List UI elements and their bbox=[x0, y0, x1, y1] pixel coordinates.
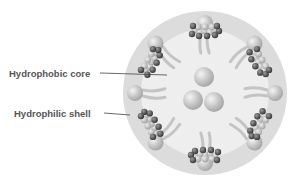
drug-atom-dark bbox=[254, 134, 260, 140]
hydrophilic-head bbox=[267, 85, 283, 101]
drug-atom-dark bbox=[266, 113, 272, 119]
drug-atom-light bbox=[144, 57, 151, 64]
drug-atom-dark bbox=[150, 46, 156, 52]
drug-atom-dark bbox=[157, 131, 163, 137]
drug-atom-dark bbox=[246, 49, 252, 55]
drug-atom-dark bbox=[190, 157, 196, 163]
core-particle bbox=[204, 92, 224, 112]
drug-atom-dark bbox=[153, 60, 159, 66]
drug-atom-dark bbox=[190, 23, 196, 29]
drug-atom-light bbox=[202, 156, 209, 163]
core-particle bbox=[183, 90, 203, 110]
drug-atom-dark bbox=[247, 127, 253, 133]
drug-atom-dark bbox=[254, 113, 260, 119]
core-particle bbox=[194, 67, 214, 87]
drug-atom-dark bbox=[151, 117, 157, 123]
drug-atom-light bbox=[259, 57, 266, 64]
drug-atom-dark bbox=[155, 123, 161, 129]
drug-atom-dark bbox=[147, 110, 153, 116]
drug-atom-light bbox=[259, 123, 266, 130]
drug-atom-dark bbox=[200, 147, 206, 153]
drug-atom-dark bbox=[214, 157, 220, 163]
drug-atom-dark bbox=[138, 113, 144, 119]
drug-atom-dark bbox=[157, 52, 163, 58]
drug-atom-dark bbox=[189, 31, 195, 37]
drug-atom-dark bbox=[149, 66, 155, 72]
drug-atom-dark bbox=[196, 33, 202, 39]
drug-atom-dark bbox=[208, 147, 214, 153]
drug-atom-light bbox=[202, 24, 209, 31]
drug-atom-dark bbox=[248, 56, 254, 62]
drug-atom-dark bbox=[214, 23, 220, 29]
drug-atom-dark bbox=[204, 33, 210, 39]
drug-atom-dark bbox=[254, 46, 260, 52]
micelle-diagram bbox=[0, 0, 290, 191]
drug-atom-dark bbox=[257, 69, 263, 75]
hydrophilic-head bbox=[127, 85, 143, 101]
drug-atom-dark bbox=[252, 63, 258, 69]
drug-atom-dark bbox=[259, 108, 265, 114]
drug-atom-dark bbox=[250, 120, 256, 126]
drug-atom-dark bbox=[138, 67, 144, 73]
drug-atom-dark bbox=[266, 67, 272, 73]
drug-atom-light bbox=[144, 123, 151, 130]
drug-atom-dark bbox=[215, 149, 221, 155]
drug-atom-dark bbox=[150, 134, 156, 140]
